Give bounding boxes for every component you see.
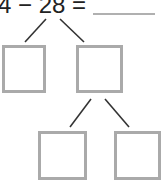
box-top-left[interactable] — [2, 45, 46, 93]
branch-line-bottom-right — [105, 99, 129, 127]
branch-line-top-right — [60, 19, 84, 42]
box-top-right[interactable] — [76, 45, 123, 93]
box-bottom-left[interactable] — [38, 131, 87, 180]
box-bottom-right[interactable] — [114, 131, 161, 180]
branch-line-bottom-left — [70, 99, 91, 127]
branch-line-top-left — [25, 19, 46, 42]
